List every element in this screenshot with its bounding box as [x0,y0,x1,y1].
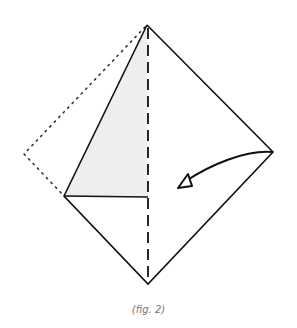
figure-caption: (fig. 2) [0,304,297,315]
figure-container: (fig. 2) [0,0,297,328]
crease-horizontal [64,196,148,197]
origami-diagram [0,0,297,328]
arrowhead-icon [178,174,192,188]
